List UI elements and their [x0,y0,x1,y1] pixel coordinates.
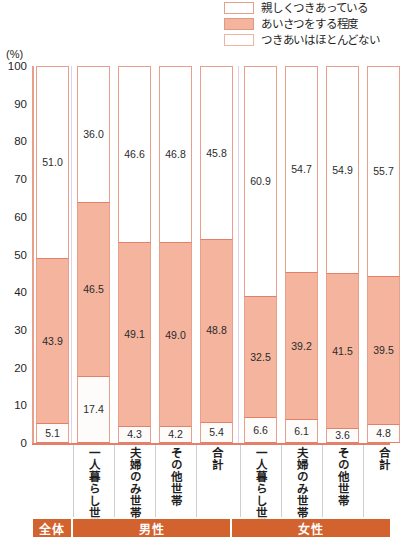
category-label: その他世帯 [159,445,192,517]
category-divider [196,445,197,517]
category-label-text: その他世帯 [169,447,182,507]
category-label-text: 夫婦のみ世帯 [128,447,141,519]
bar-segment-none: 4.3 [118,427,151,443]
bar-segment-close: 36.0 [77,66,110,202]
stacked-bar: 51.043.95.1 [36,66,69,443]
bar-segment-value: 5.1 [45,428,60,439]
category-label-text: 合計 [377,447,390,471]
bar-segment-none: 17.4 [77,377,110,443]
legend-item-label: つきあいはほとんどない [261,34,380,46]
legend-swatch-icon [224,18,254,30]
bar-segment-value: 39.2 [291,341,311,352]
bar-segment-value: 60.9 [250,176,270,187]
bar-segment-greeting: 43.9 [36,258,69,424]
bar-segment-value: 51.0 [42,157,62,168]
bar-segment-close: 60.9 [244,66,277,296]
legend-swatch-icon [224,2,254,14]
stacked-bar: 36.046.517.4 [77,66,110,443]
bar-segment-value: 49.0 [165,330,185,341]
bar-segment-value: 6.6 [253,425,268,436]
bar-segment-greeting: 41.5 [326,273,359,429]
category-label-text: その他世帯 [336,447,349,507]
y-axis-tick: 20 [14,362,27,374]
bar-segment-value: 39.5 [373,345,393,356]
category-label-row: 一人暮らし世帯夫婦のみ世帯その他世帯合計一人暮らし世帯夫婦のみ世帯その他世帯合計 [33,445,390,517]
bar-segment-value: 17.4 [83,404,103,415]
group-separator [238,66,239,443]
stacked-bar: 54.941.53.6 [326,66,359,443]
y-axis-tick: 0 [21,437,27,449]
bar-segment-value: 5.4 [209,427,224,438]
y-axis-tick: 50 [14,249,27,261]
category-divider [240,445,241,517]
bar-segment-value: 3.6 [335,430,350,441]
y-axis-tick: 100 [8,60,27,72]
bar-segment-none: 5.1 [36,424,69,443]
bar-segment-value: 46.6 [124,149,144,160]
legend-item-label: 親しくつきあっている [261,2,368,14]
bar-segment-value: 54.9 [332,165,352,176]
category-label: 夫婦のみ世帯 [285,445,318,517]
group-header-row: 全体 男性 女性 [33,519,390,537]
group-separator [71,66,72,443]
chart-plot-area: 51.043.95.136.046.517.446.649.14.346.849… [33,66,390,443]
category-label: 合計 [200,445,233,517]
y-axis-unit-label: (%) [6,48,23,60]
category-divider [281,445,282,517]
bar-segment-value: 36.0 [83,129,103,140]
category-divider [73,445,74,517]
bar-segment-value: 46.5 [83,284,103,295]
bar-segment-none: 3.6 [326,429,359,443]
category-label-text: 夫婦のみ世帯 [295,447,308,519]
y-axis-tick: 70 [14,173,27,185]
bar-segment-greeting: 39.5 [367,276,400,425]
bar-segment-close: 46.8 [159,66,192,242]
category-divider [322,445,323,517]
stacked-bar: 55.739.54.8 [367,66,400,443]
bar-segment-value: 32.5 [250,352,270,363]
category-label: 合計 [367,445,400,517]
category-label [36,445,69,517]
y-axis-tick: 60 [14,211,27,223]
bar-segment-close: 55.7 [367,66,400,276]
bar-segment-value: 4.2 [168,429,183,440]
bar-segment-none: 4.2 [159,427,192,443]
bar-segment-none: 6.6 [244,418,277,443]
category-divider [363,445,364,517]
legend: 親しくつきあっている あいさつをする程度 つきあいはほとんどない [224,1,399,47]
stacked-bar: 45.848.85.4 [200,66,233,443]
legend-item: 親しくつきあっている [224,1,399,15]
stacked-bar: 46.649.14.3 [118,66,151,443]
stacked-bar: 46.849.04.2 [159,66,192,443]
category-divider [114,445,115,517]
bar-segment-greeting: 48.8 [200,239,233,423]
y-axis-tick: 30 [14,324,27,336]
group-header-zentai: 全体 [33,519,71,537]
bar-segment-value: 43.9 [42,336,62,347]
bar-segment-value: 4.3 [127,429,142,440]
bar-segment-value: 45.8 [206,148,226,159]
category-label: 一人暮らし世帯 [244,445,277,517]
bar-segment-value: 4.8 [376,428,391,439]
bar-segment-value: 41.5 [332,346,352,357]
stacked-bar: 60.932.56.6 [244,66,277,443]
bar-segment-none: 4.8 [367,425,400,443]
bar-segment-close: 51.0 [36,66,69,258]
bar-segment-close: 46.6 [118,66,151,242]
bar-segment-value: 54.7 [291,164,311,175]
bar-segment-close: 54.7 [285,66,318,272]
legend-swatch-icon [224,34,254,46]
bar-segment-value: 49.1 [124,329,144,340]
bar-segment-none: 6.1 [285,420,318,443]
y-axis-tick: 90 [14,98,27,110]
bar-segment-close: 45.8 [200,66,233,239]
group-header-josei: 女性 [232,519,390,537]
category-label: その他世帯 [326,445,359,517]
bar-segment-greeting: 49.1 [118,242,151,427]
category-label-text: 合計 [210,447,223,471]
stacked-bar: 54.739.26.1 [285,66,318,443]
bar-segment-greeting: 46.5 [77,202,110,377]
category-label: 一人暮らし世帯 [77,445,110,517]
y-axis-tick: 10 [14,399,27,411]
bar-segment-value: 55.7 [373,166,393,177]
